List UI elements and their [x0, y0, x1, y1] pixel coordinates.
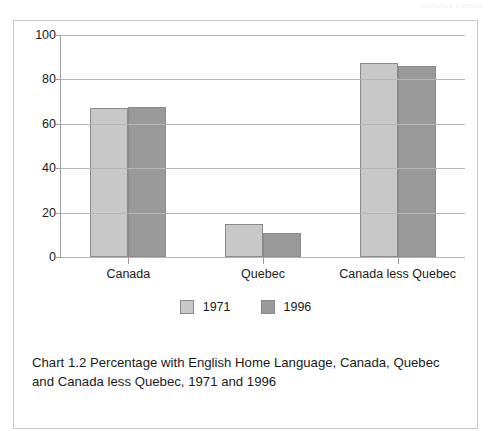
bar-groups — [61, 35, 465, 257]
bar[interactable] — [360, 63, 398, 257]
bar-group — [196, 35, 331, 257]
y-axis-tick-label: 20 — [42, 206, 56, 220]
plot-canvas — [61, 35, 465, 257]
legend-item[interactable]: 1996 — [261, 300, 312, 314]
bar[interactable] — [263, 233, 301, 257]
y-axis-tick-mark — [56, 168, 61, 169]
legend-swatch-icon — [180, 300, 194, 314]
x-axis-category-label: Quebec — [196, 267, 331, 287]
y-axis-tick-labels: 020406080100 — [14, 35, 56, 257]
x-axis-category-labels: CanadaQuebecCanada less Quebec — [61, 267, 465, 287]
bar[interactable] — [398, 66, 436, 257]
gridline — [61, 213, 465, 214]
legend-label: 1971 — [203, 300, 231, 314]
bar[interactable] — [90, 108, 128, 257]
x-axis-tick-mark — [330, 257, 465, 265]
legend-label: 1996 — [284, 300, 312, 314]
y-axis-tick-label: 0 — [49, 250, 56, 264]
bar-group — [61, 35, 196, 257]
page-header-ghost-text: Statistics Canada — [420, 0, 483, 12]
figure-frame: 020406080100 CanadaQuebecCanada less Que… — [13, 20, 478, 429]
bar-group — [330, 35, 465, 257]
gridline — [61, 35, 465, 36]
x-axis-category-label: Canada — [61, 267, 196, 287]
y-axis-tick-mark — [56, 35, 61, 36]
y-axis-tick-mark — [56, 213, 61, 214]
gridline — [61, 124, 465, 125]
y-axis-tick-label: 80 — [42, 72, 56, 86]
y-axis-tick-label: 60 — [42, 117, 56, 131]
x-axis-tick-marks — [61, 257, 465, 265]
y-axis-tick-mark — [56, 124, 61, 125]
bar[interactable] — [128, 107, 166, 257]
x-axis-category-label: Canada less Quebec — [330, 267, 465, 287]
legend-item[interactable]: 1971 — [180, 300, 231, 314]
bar[interactable] — [225, 224, 263, 257]
legend-swatch-icon — [261, 300, 275, 314]
y-axis-tick-label: 40 — [42, 161, 56, 175]
gridline — [61, 168, 465, 169]
plot-area: 020406080100 CanadaQuebecCanada less Que… — [14, 21, 479, 273]
chart-caption: Chart 1.2 Percentage with English Home L… — [32, 353, 457, 391]
chart-legend: 19711996 — [14, 300, 477, 314]
x-axis-tick-mark — [196, 257, 331, 265]
y-axis-tick-mark — [56, 79, 61, 80]
gridline — [61, 79, 465, 80]
y-axis-tick-label: 100 — [35, 28, 56, 42]
x-axis-tick-mark — [61, 257, 196, 265]
